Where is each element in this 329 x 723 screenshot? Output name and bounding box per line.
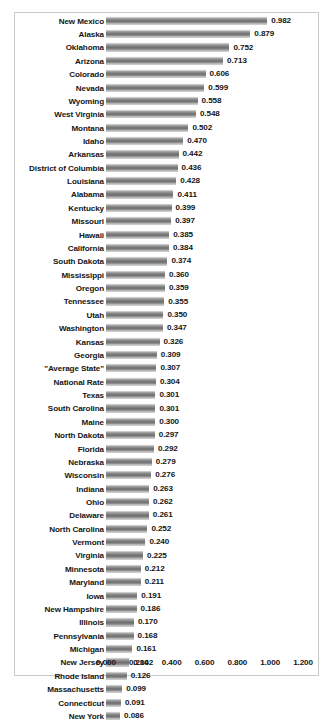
bar-value-label: 0.126 [131,671,151,680]
bar-row: Texas0.301 [15,388,318,401]
bar-row: Alaska0.879 [15,27,318,40]
bar-value-label: 0.442 [183,150,203,159]
category-label: West Virginia [54,110,104,119]
bar [106,618,134,626]
bar-container: 0.262 [106,498,149,506]
bar-row: Indiana0.263 [15,482,318,495]
bar-row: Washington0.347 [15,322,318,335]
bar [106,525,147,533]
bar [106,337,160,345]
bar [106,685,122,693]
category-label: Kentucky [68,203,104,212]
bar-row: Missouri0.397 [15,215,318,228]
category-label: District of Columbia [29,163,104,172]
bar [106,364,156,372]
bar-container: 0.091 [106,698,121,706]
x-axis-tick-label: 1.200 [293,657,313,668]
bar [106,70,206,78]
bar-container: 0.599 [106,83,204,91]
bar-container: 0.086 [106,712,120,720]
category-label: Vermont [72,538,104,547]
bar [106,458,152,466]
bar-row: Virginia0.225 [15,549,318,562]
category-label: Iowa [86,591,104,600]
bar-value-label: 0.168 [138,631,158,640]
category-label: California [68,243,104,252]
bar-container: 0.170 [106,618,134,626]
bar-value-label: 0.301 [159,391,179,400]
bar-container: 0.099 [106,685,122,693]
bar [106,698,121,706]
bar-row: Tennessee0.355 [15,295,318,308]
bar [106,485,149,493]
x-axis-tick-label: 0.200 [129,657,149,668]
bar [106,83,204,91]
bar [106,297,164,305]
bar-row: Montana0.502 [15,121,318,134]
bar-container: 0.297 [106,431,155,439]
bar-value-label: 0.212 [145,564,165,573]
bar-row: Delaware0.261 [15,509,318,522]
x-axis-tick-label: 0.000 [96,657,116,668]
category-label: Hawaii [79,230,104,239]
bar-value-label: 0.879 [254,30,274,39]
bar-container: 0.606 [106,70,206,78]
bar-container: 0.304 [106,378,156,386]
bar-value-label: 0.261 [153,511,173,520]
bar-row: Iowa0.191 [15,589,318,602]
x-axis-tick-label: 0.400 [162,657,182,668]
bar-row: Rhode Island0.126 [15,669,318,682]
bar [106,17,267,25]
bar-container: 0.126 [106,672,127,680]
bar-value-label: 0.360 [169,270,189,279]
bar-value-label: 0.279 [156,457,176,466]
x-axis-tick-label: 0.800 [227,657,247,668]
category-label: Maine [82,417,104,426]
category-label: Nebraska [68,457,104,466]
bar-value-label: 0.470 [187,137,207,146]
bar [106,578,141,586]
bar-container: 0.879 [106,30,250,38]
bar [106,217,171,225]
bar-value-label: 0.326 [164,337,184,346]
bar-container: 0.442 [106,150,179,158]
bar-container: 0.326 [106,337,160,345]
bar-row: Maine0.300 [15,415,318,428]
bar-container: 0.350 [106,311,163,319]
bar [106,565,141,573]
bar-row: Maryland0.211 [15,576,318,589]
bar-container: 0.307 [106,364,156,372]
bar-container: 0.279 [106,458,152,466]
category-label: Massachusetts [47,685,104,694]
bar-container: 0.385 [106,231,169,239]
bar-row: "Average State"0.307 [15,362,318,375]
category-label: Nevada [76,83,104,92]
bar-container: 0.558 [106,97,198,105]
category-label: South Carolina [48,404,104,413]
x-axis-tick-label: 1.000 [260,657,280,668]
bar [106,244,169,252]
bar-value-label: 0.170 [138,618,158,627]
bar-container: 0.428 [106,177,176,185]
bar-container: 0.752 [106,43,229,51]
bar [106,124,188,132]
bar-row: Alabama0.411 [15,188,318,201]
bar-value-label: 0.263 [153,484,173,493]
category-label: New Mexico [59,16,104,25]
bar [106,511,149,519]
bar [106,444,154,452]
bar-container: 0.168 [106,632,134,640]
bar-container: 0.502 [106,124,188,132]
bar-value-label: 0.599 [208,83,228,92]
bar [106,471,151,479]
bar-value-label: 0.211 [145,578,164,587]
bar-row: Mississippi0.360 [15,268,318,281]
bar-row: Ohio0.262 [15,495,318,508]
bar [106,712,120,720]
category-label: Pennsylvania [53,631,104,640]
bar-container: 0.300 [106,418,155,426]
bar [106,498,149,506]
bar-value-label: 0.606 [210,70,230,79]
category-label: Oklahoma [66,43,104,52]
bar-value-label: 0.399 [176,203,196,212]
